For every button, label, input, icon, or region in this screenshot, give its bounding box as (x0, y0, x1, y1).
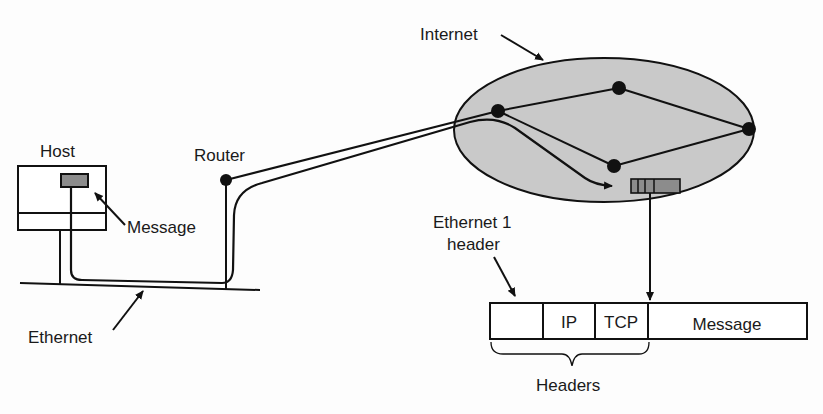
packet-field-tcp: TCP (604, 313, 638, 332)
eth-header-arrow (494, 257, 515, 296)
headers-brace (491, 342, 649, 366)
router-node (607, 159, 621, 173)
edge-router-node (220, 174, 232, 186)
host-computer (18, 166, 106, 230)
router-label: Router (194, 146, 245, 165)
packet-field-message: Message (693, 315, 762, 334)
eth-header-label-line2: header (447, 235, 500, 254)
ethernet-arrow (113, 291, 143, 330)
message-block (61, 174, 88, 187)
router-node (612, 81, 626, 95)
internet-arrow (501, 35, 543, 60)
packet-field-ip: IP (561, 313, 577, 332)
ethernet-label: Ethernet (28, 328, 93, 347)
internet-label: Internet (420, 25, 478, 44)
network-diagram: IP TCP Message Internet Host Router Mess… (0, 0, 823, 414)
router-node (742, 122, 756, 136)
message-label: Message (127, 218, 196, 237)
eth-header-label-line1: Ethernet 1 (433, 213, 511, 232)
headers-label: Headers (536, 376, 600, 395)
internet-cloud (454, 58, 754, 202)
host-label: Host (40, 142, 75, 161)
ethernet-bus (20, 283, 260, 290)
packet-in-transit (631, 179, 680, 193)
